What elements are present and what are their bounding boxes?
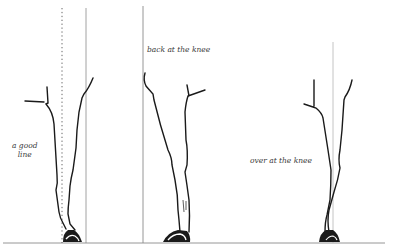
diagram-drawing xyxy=(0,0,393,251)
label-good-line: a good line xyxy=(12,141,38,159)
leg-outline-left xyxy=(144,73,180,232)
panel-over-at-the-knee xyxy=(304,42,352,243)
conformation-diagram: a good line back at the knee over at the… xyxy=(0,0,393,251)
leg-outline-right xyxy=(68,78,93,230)
panel-good-line xyxy=(25,8,93,243)
label-good-line-2: line xyxy=(12,150,38,159)
panel-back-at-the-knee xyxy=(143,6,205,243)
label-back-at-the-knee: back at the knee xyxy=(147,45,210,54)
hoof xyxy=(319,230,340,242)
label-over-at-the-knee: over at the knee xyxy=(250,156,312,165)
label-good-line-1: a good xyxy=(12,141,38,150)
leg-outline-right xyxy=(328,80,352,232)
hoof xyxy=(163,230,190,242)
leg-outline-right xyxy=(185,85,205,232)
